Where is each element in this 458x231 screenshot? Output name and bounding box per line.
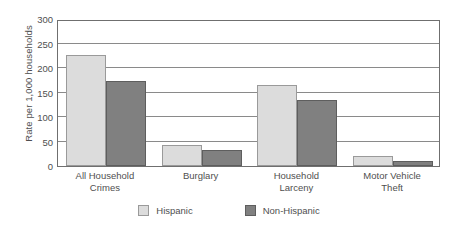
bar-group: [353, 21, 433, 166]
legend-swatch-hispanic: [138, 205, 149, 216]
x-axis-category-label-line: Crimes: [57, 182, 153, 194]
x-axis-category-labels: All HouseholdCrimesBurglaryHouseholdLarc…: [57, 170, 440, 198]
y-axis-tick-label: 250: [23, 40, 53, 50]
x-axis-category-label-line: Theft: [344, 182, 440, 194]
bar-hispanic: [353, 156, 393, 166]
y-axis-tick-labels: 050100150200250300: [19, 20, 53, 167]
x-axis-category-label-line: Household: [249, 170, 345, 182]
bar-nonhispanic: [297, 100, 337, 166]
bar-group: [66, 21, 146, 166]
legend-swatch-nonhispanic: [245, 205, 256, 216]
bar-chart-figure: Rate per 1,000 households 05010015020025…: [0, 0, 458, 231]
y-axis-tick-label: 150: [23, 89, 53, 99]
bar-hispanic: [66, 55, 106, 166]
y-axis-tick-label: 0: [23, 162, 53, 172]
x-axis-category-label-line: All Household: [57, 170, 153, 182]
legend-item: Hispanic: [138, 205, 192, 216]
x-axis-category-label: HouseholdLarceny: [249, 170, 345, 193]
bar-group: [162, 21, 242, 166]
bar-nonhispanic: [106, 81, 146, 166]
bar-nonhispanic: [393, 161, 433, 166]
y-axis-tick-label: 100: [23, 113, 53, 123]
x-axis-category-label-line: Burglary: [153, 170, 249, 182]
x-axis-category-label-line: Larceny: [249, 182, 345, 194]
plot-area: [57, 20, 440, 167]
legend-item: Non-Hispanic: [245, 205, 320, 216]
x-axis-category-label-line: Motor Vehicle: [344, 170, 440, 182]
bar-group: [257, 21, 337, 166]
x-axis-category-label: Motor VehicleTheft: [344, 170, 440, 193]
x-axis-category-label: All HouseholdCrimes: [57, 170, 153, 193]
bar-hispanic: [162, 145, 202, 166]
y-axis-tick-label: 300: [23, 15, 53, 25]
legend-label: Non-Hispanic: [263, 205, 320, 216]
y-axis-tick-label: 200: [23, 64, 53, 74]
bar-nonhispanic: [202, 150, 242, 166]
y-axis-tick-label: 50: [23, 138, 53, 148]
bar-hispanic: [257, 85, 297, 166]
legend-label: Hispanic: [156, 205, 192, 216]
chart-legend: HispanicNon-Hispanic: [0, 200, 458, 220]
x-axis-category-label: Burglary: [153, 170, 249, 182]
